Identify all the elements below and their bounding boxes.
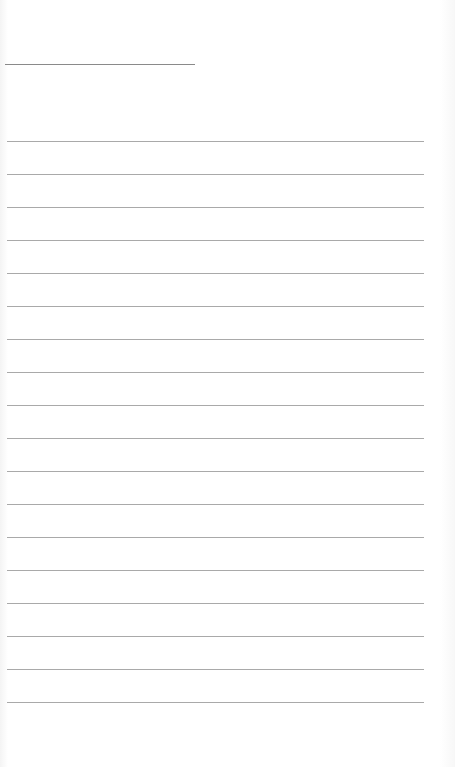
ruled-line [7, 339, 424, 340]
ruled-line [7, 207, 424, 208]
ruled-line [7, 669, 424, 670]
ruled-line [7, 537, 424, 538]
header-underline [5, 64, 195, 65]
ruled-line [7, 603, 424, 604]
ruled-line [7, 405, 424, 406]
ruled-line [7, 372, 424, 373]
ruled-line [7, 504, 424, 505]
ruled-line [7, 141, 424, 142]
ruled-line [7, 471, 424, 472]
ruled-line [7, 174, 424, 175]
ruled-line [7, 240, 424, 241]
ruled-line [7, 570, 424, 571]
ruled-line [7, 438, 424, 439]
ruled-line [7, 273, 424, 274]
ruled-line [7, 702, 424, 703]
ruled-line [7, 636, 424, 637]
lined-paper-page [0, 0, 455, 767]
ruled-line [7, 306, 424, 307]
